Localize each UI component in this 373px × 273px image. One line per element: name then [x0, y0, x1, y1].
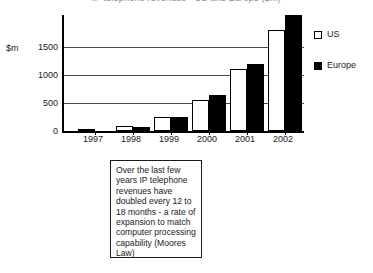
legend-swatch-us-icon — [314, 31, 322, 39]
x-label-1998: 1998 — [111, 135, 151, 144]
cut-off-header-text: IP telephone revenues - US and Europe ($… — [0, 0, 373, 5]
bar-chart: $m 1500 1000 500 0 — [0, 8, 373, 138]
x-label-1999: 1999 — [149, 135, 189, 144]
legend-swatch-europe-icon — [314, 62, 322, 70]
caption-text: Over the last few years IP telephone rev… — [116, 165, 197, 259]
x-label-2001: 2001 — [225, 135, 265, 144]
x-label-2000: 2000 — [187, 135, 227, 144]
x-label-2002: 2002 — [263, 135, 303, 144]
chart-legend: US Europe — [314, 30, 372, 92]
legend-label-europe: Europe — [327, 61, 356, 70]
legend-item-us: US — [314, 30, 372, 39]
legend-item-europe: Europe — [314, 61, 372, 70]
caption-box: Over the last few years IP telephone rev… — [110, 160, 202, 258]
x-label-1997: 1997 — [73, 135, 113, 144]
legend-label-us: US — [327, 30, 340, 39]
